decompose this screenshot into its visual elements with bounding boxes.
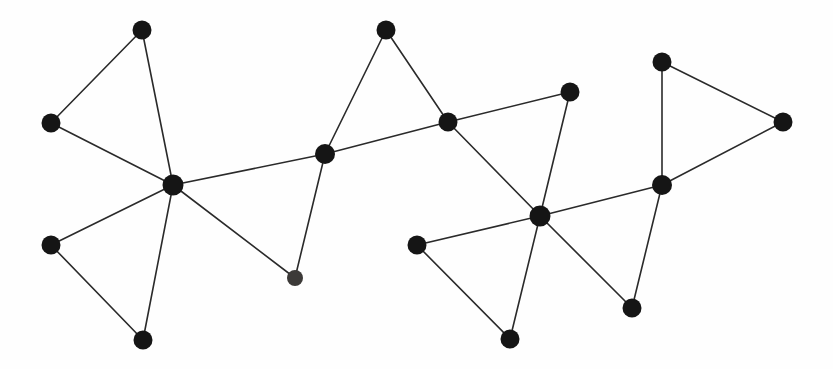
edge-n14-n15[interactable] <box>632 185 662 308</box>
node-top-left[interactable] <box>133 21 152 40</box>
node-left-lower[interactable] <box>42 236 61 255</box>
edge-n10-n11[interactable] <box>540 92 570 216</box>
node-bottom-left[interactable] <box>134 331 153 350</box>
edge-n16-n17[interactable] <box>662 62 783 122</box>
edge-n11-n13[interactable] <box>510 216 540 339</box>
node-top-center[interactable] <box>377 21 396 40</box>
edge-n9-n10[interactable] <box>448 92 570 122</box>
edge-n4-n5[interactable] <box>51 245 143 340</box>
edge-n6-n9[interactable] <box>386 30 448 122</box>
edge-n1-n2[interactable] <box>51 30 142 123</box>
edge-n3-n4[interactable] <box>51 185 173 245</box>
edge-n11-n15[interactable] <box>540 185 662 216</box>
edge-n3-n8[interactable] <box>173 185 295 278</box>
edge-n11-n14[interactable] <box>540 216 632 308</box>
edge-n12-n13[interactable] <box>417 245 510 339</box>
node-layer <box>42 21 793 350</box>
node-center-right-upper[interactable] <box>439 113 458 132</box>
edge-n1-n3[interactable] <box>142 30 173 185</box>
node-hub-right[interactable] <box>530 206 551 227</box>
edge-n3-n5[interactable] <box>143 185 173 340</box>
node-far-right[interactable] <box>774 113 793 132</box>
node-right-left-spur[interactable] <box>408 236 427 255</box>
node-right-junction[interactable] <box>652 175 672 195</box>
node-bottom-center[interactable] <box>501 330 520 349</box>
graph-canvas <box>0 0 833 369</box>
node-left-upper[interactable] <box>42 114 61 133</box>
edge-n6-n7[interactable] <box>325 30 386 154</box>
edge-n11-n12[interactable] <box>417 216 540 245</box>
edge-n3-n7[interactable] <box>173 154 325 185</box>
edge-n7-n8[interactable] <box>295 154 325 278</box>
graph-figure <box>0 0 833 369</box>
edge-n2-n3[interactable] <box>51 123 173 185</box>
node-bottom-right[interactable] <box>623 299 642 318</box>
node-center-lower[interactable] <box>287 270 303 286</box>
node-upper-right-spur[interactable] <box>561 83 580 102</box>
node-center-junction[interactable] <box>315 144 335 164</box>
edge-layer <box>51 30 783 340</box>
node-hub-left[interactable] <box>163 175 184 196</box>
edge-n7-n9[interactable] <box>325 122 448 154</box>
edge-n15-n17[interactable] <box>662 122 783 185</box>
edge-n9-n11[interactable] <box>448 122 540 216</box>
node-right-top[interactable] <box>653 53 672 72</box>
